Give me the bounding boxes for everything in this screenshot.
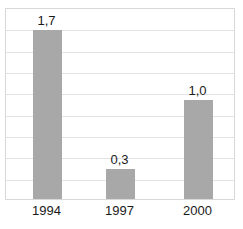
bar bbox=[184, 100, 213, 199]
category-label: 2000 bbox=[168, 203, 228, 218]
bar-value-label: 1,7 bbox=[17, 13, 77, 28]
bar-chart: 1,70,31,0 199419972000 bbox=[0, 0, 243, 229]
category-label: 1994 bbox=[17, 203, 77, 218]
category-axis: 199419972000 bbox=[5, 203, 235, 225]
bar bbox=[106, 169, 135, 199]
bar-value-label: 0,3 bbox=[90, 152, 150, 167]
bar-value-label: 1,0 bbox=[168, 83, 228, 98]
bar bbox=[33, 30, 62, 199]
category-label: 1997 bbox=[90, 203, 150, 218]
plot-area bbox=[5, 8, 235, 200]
